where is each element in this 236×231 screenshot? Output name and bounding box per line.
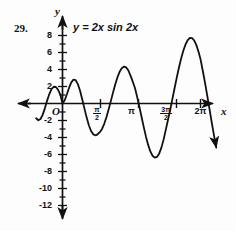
graph-canvas (0, 0, 236, 231)
figure-container: 29. y = 2x sin 2x y x O 8 6 4 2 -2 -4 -6… (0, 0, 236, 231)
y-axis-ticks (58, 36, 67, 206)
